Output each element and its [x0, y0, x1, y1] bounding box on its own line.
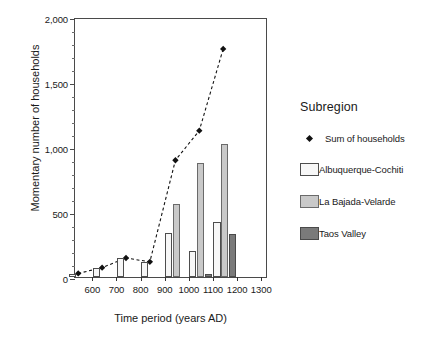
data-point-marker [75, 270, 81, 276]
x-axis-tick-label: 600 [85, 284, 101, 295]
plot-inner: 05001,0001,5002,000600700800900100011001… [75, 19, 266, 277]
y-axis-tick-label: 0 [63, 274, 68, 285]
y-axis-tick-major [70, 279, 75, 280]
legend-item: Sum of households [300, 133, 439, 144]
bar [197, 163, 204, 277]
y-axis-tick-label: 1,000 [45, 144, 68, 155]
legend-label: La Bajada-Velarde [319, 196, 395, 207]
y-axis-tick-minor [72, 71, 75, 72]
x-axis-tick [116, 277, 117, 281]
y-axis-tick-label: 500 [52, 209, 68, 220]
y-axis-tick-minor [72, 227, 75, 228]
y-axis-tick-minor [72, 266, 75, 267]
diamond-icon [300, 136, 319, 141]
x-axis-tick [237, 277, 238, 281]
bar [213, 222, 220, 277]
y-axis-tick-minor [72, 97, 75, 98]
y-axis-tick-minor [72, 201, 75, 202]
y-axis-tick-minor [72, 136, 75, 137]
y-axis-tick-minor [72, 58, 75, 59]
legend-label: Sum of households [325, 133, 405, 144]
x-axis-tick-label: 1100 [203, 284, 223, 295]
bar [93, 268, 100, 277]
bar [69, 274, 76, 277]
data-point-marker [172, 157, 178, 163]
bar [117, 258, 124, 277]
x-axis-tick-label: 900 [157, 284, 173, 295]
x-axis-tick [189, 277, 190, 281]
x-axis-tick-label: 1000 [178, 284, 199, 295]
legend-label: Albuquerque-Cochiti [319, 164, 403, 175]
legend-swatch [300, 163, 319, 176]
y-axis-tick-major [70, 19, 75, 20]
bar [173, 204, 180, 277]
data-point-marker [220, 46, 226, 52]
x-axis-tick-label: 1200 [227, 284, 248, 295]
bar [221, 144, 228, 277]
x-axis-tick-label: 700 [109, 284, 125, 295]
legend-item: Taos Valley [300, 227, 439, 240]
y-axis-tick-major [70, 84, 75, 85]
chart-figure: 05001,0001,5002,000600700800900100011001… [0, 0, 439, 341]
y-axis-title: Momentary number of households [29, 13, 41, 243]
y-axis-tick-minor [72, 253, 75, 254]
y-axis-tick-minor [72, 175, 75, 176]
y-axis-tick-major [70, 214, 75, 215]
y-axis-tick-label: 2,000 [45, 14, 68, 25]
x-axis-tick [141, 277, 142, 281]
x-axis-tick [261, 277, 262, 281]
x-axis-tick [165, 277, 166, 281]
y-axis-tick-minor [72, 162, 75, 163]
plot-area: 05001,0001,5002,000600700800900100011001… [74, 18, 267, 278]
legend-title: Subregion [300, 100, 439, 114]
y-axis-tick-minor [72, 240, 75, 241]
legend-swatch [300, 195, 319, 208]
x-axis-tick [213, 277, 214, 281]
diamond-glyph [306, 135, 313, 142]
x-axis-tick-label: 800 [133, 284, 149, 295]
bar [189, 251, 196, 277]
y-axis-tick-minor [72, 32, 75, 33]
y-axis-tick-label: 1,500 [45, 79, 68, 90]
y-axis-tick-minor [72, 123, 75, 124]
y-axis-tick-minor [72, 110, 75, 111]
data-point-marker [99, 264, 105, 270]
y-axis-tick-minor [72, 188, 75, 189]
legend-item: Albuquerque-Cochiti [300, 163, 439, 176]
bar [141, 262, 148, 277]
x-axis-tick-label: 1300 [251, 284, 272, 295]
legend-label: Taos Valley [319, 228, 366, 239]
y-axis-tick-minor [72, 45, 75, 46]
chart-legend: Subregion Sum of householdsAlbuquerque-C… [300, 100, 439, 259]
x-axis-title: Time period (years AD) [74, 312, 267, 324]
bar [229, 234, 236, 277]
x-axis-tick [92, 277, 93, 281]
y-axis-tick-major [70, 149, 75, 150]
bar [165, 233, 172, 277]
legend-swatch [300, 227, 319, 240]
data-point-marker [196, 127, 202, 133]
bar [205, 274, 212, 277]
legend-item: La Bajada-Velarde [300, 195, 439, 208]
